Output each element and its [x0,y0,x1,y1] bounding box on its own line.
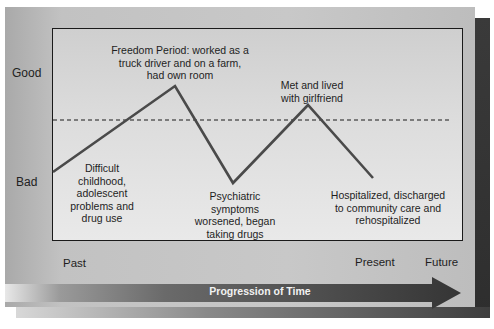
note-hospitalized: Hospitalized, discharged to community ca… [313,189,463,227]
note-freedom-period: Freedom Period: worked as a truck driver… [100,44,260,82]
x-label-future: Future [425,256,458,268]
note-girlfriend: Met and lived with girlfriend [262,79,362,104]
time-arrow-label: Progression of Time [190,285,330,297]
note-psychiatric: Psychiatric symptoms worsened, began tak… [180,190,290,240]
note-childhood: Difficult childhood, adolescent problems… [57,162,147,225]
x-label-present: Present [355,256,395,268]
x-label-past: Past [63,257,86,269]
